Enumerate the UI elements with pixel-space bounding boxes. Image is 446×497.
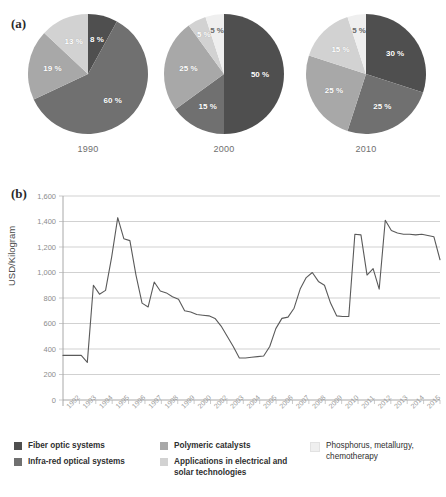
legend-item-fiber-optic-systems: Fiber optic systems (14, 440, 164, 451)
pie-2000-year-label: 2000 (158, 144, 290, 154)
y-axis-ticks: 02004006008001,0001,2001,4001,600 (37, 192, 63, 405)
legend-column-2: Polymeric catalysts Applications in elec… (160, 440, 308, 483)
x-tick-label: 1993 (81, 394, 97, 410)
legend-swatch-icon (310, 442, 320, 452)
x-tick-label: 2000 (196, 394, 212, 410)
y-tick-label: 1,400 (37, 217, 56, 226)
pie-slice-value-label: 30 % (386, 48, 404, 57)
x-tick-label: 1992 (65, 394, 81, 410)
x-tick-label: 1994 (98, 394, 114, 410)
x-axis-ticks: 1992199319941995199619971998199920002002… (65, 394, 442, 410)
legend-column-1: Fiber optic systems Infra-red optical sy… (14, 440, 164, 472)
pie-2010-svg (304, 12, 428, 136)
pie-slice-value-label: 5 % (197, 30, 211, 39)
legend-column-3: Phosphorus, metallurgy, chemotherapy (310, 440, 440, 467)
x-tick-label: 2003 (229, 394, 245, 410)
legend-item-label: Fiber optic systems (28, 440, 105, 451)
legend-item-polymeric-catalysts: Polymeric catalysts (160, 440, 308, 451)
pie-slice-value-label: 13 % (65, 36, 83, 45)
x-tick-label: 2012 (376, 394, 392, 410)
x-tick-label: 2006 (278, 394, 294, 410)
pie-slice-value-label: 5 % (210, 26, 224, 35)
y-tick-label: 1,600 (37, 192, 56, 201)
legend-item-label: Phosphorus, metallurgy, chemotherapy (326, 440, 440, 462)
pie-slice-value-label: 5 % (352, 26, 366, 35)
y-tick-label: 600 (43, 319, 56, 328)
figure-container: (a) 8 %60 %19 %13 % 1990 50 %15 %25 %5 %… (0, 0, 446, 497)
pie-slice-value-label: 25 % (179, 64, 197, 73)
panel-b-line-chart: (b) USD/Kilogram 02004006008001,0001,200… (0, 178, 446, 428)
pie-2010-year-label: 2010 (300, 144, 432, 154)
x-tick-label: 1996 (131, 394, 147, 410)
y-tick-label: 1,200 (37, 243, 56, 252)
legend-swatch-icon (14, 442, 22, 450)
y-tick-label: 800 (43, 294, 56, 303)
panel-a-pie-charts: (a) 8 %60 %19 %13 % 1990 50 %15 %25 %5 %… (0, 0, 446, 178)
x-tick-label: 2010 (344, 394, 360, 410)
legend-swatch-icon (14, 458, 22, 466)
legend-item-label: Polymeric catalysts (174, 440, 250, 451)
gridlines (63, 196, 440, 406)
x-tick-label: 1995 (114, 394, 130, 410)
pie-2000-graphic: 50 %15 %25 %5 %5 % (162, 12, 286, 136)
pie-chart-2000: 50 %15 %25 %5 %5 % 2000 (158, 12, 290, 154)
legend-item-label: Infra-red optical systems (28, 456, 125, 467)
x-tick-label: 2014 (409, 394, 425, 410)
x-tick-label: 2008 (311, 394, 327, 410)
legend-item-phosphorus-metallurgy-chemotherapy: Phosphorus, metallurgy, chemotherapy (310, 440, 440, 462)
pie-slice-value-label: 15 % (199, 102, 217, 111)
y-tick-label: 200 (43, 370, 56, 379)
pie-slice-value-label: 8 % (90, 35, 104, 44)
line-chart-svg: 02004006008001,0001,2001,4001,600 199219… (0, 178, 446, 428)
y-tick-label: 400 (43, 345, 56, 354)
pie-slice-value-label: 60 % (104, 96, 122, 105)
pie-slice-value-label: 25 % (373, 102, 391, 111)
legend-item-applications-electrical-solar: Applications in electrical and solar tec… (160, 456, 308, 478)
pie-2010-graphic: 30 %25 %25 %15 %5 % (304, 12, 428, 136)
x-tick-label: 1997 (147, 394, 163, 410)
pie-slice-value-label: 19 % (43, 64, 61, 73)
y-tick-label: 1,000 (37, 268, 56, 277)
x-tick-label: 2004 (245, 394, 261, 410)
price-series-line (63, 218, 440, 363)
pie-chart-2010: 30 %25 %25 %15 %5 % 2010 (300, 12, 432, 154)
legend: Fiber optic systems Infra-red optical sy… (0, 440, 446, 497)
y-tick-label: 0 (52, 396, 56, 405)
legend-swatch-icon (160, 442, 168, 450)
pie-1990-svg (26, 12, 150, 136)
x-tick-label: 2013 (393, 394, 409, 410)
x-tick-label: 2009 (327, 394, 343, 410)
pie-1990-year-label: 1990 (22, 144, 154, 154)
x-tick-label: 2002 (213, 394, 229, 410)
pie-1990-graphic: 8 %60 %19 %13 % (26, 12, 150, 136)
x-tick-label: 1998 (163, 394, 179, 410)
pie-slice-value-label: 50 % (251, 70, 269, 79)
legend-item-infra-red-optical-systems: Infra-red optical systems (14, 456, 164, 467)
legend-item-label: Applications in electrical and solar tec… (174, 456, 308, 478)
pie-slice-value-label: 25 % (325, 86, 343, 95)
x-tick-label: 2007 (294, 394, 310, 410)
x-tick-label: 2015 (426, 394, 442, 410)
legend-swatch-icon (160, 458, 168, 466)
pie-slice-value-label: 15 % (331, 44, 349, 53)
x-tick-label: 2005 (262, 394, 278, 410)
pie-chart-1990: 8 %60 %19 %13 % 1990 (22, 12, 154, 154)
x-tick-label: 1999 (180, 394, 196, 410)
x-tick-label: 2011 (360, 394, 376, 410)
